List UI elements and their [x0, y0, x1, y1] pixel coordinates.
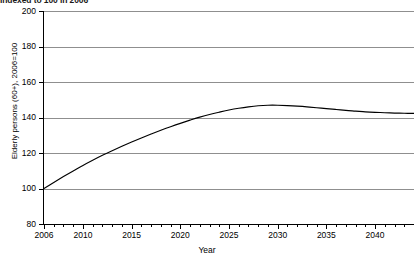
- x-tick-mark-2041: [385, 225, 386, 227]
- gridline-y-120: [44, 153, 414, 154]
- x-tick-label-2025: 2025: [209, 231, 249, 240]
- y-tick-mark-140: [39, 118, 43, 119]
- y-axis-label: Elderly persons (60+), 2006=100: [11, 13, 19, 189]
- x-tick-mark-2024: [219, 225, 220, 227]
- y-tick-mark-100: [39, 189, 43, 190]
- x-tick-mark-2025: [229, 225, 230, 229]
- x-tick-mark-2030: [278, 225, 279, 229]
- x-tick-mark-2028: [258, 225, 259, 227]
- gridline-y-100: [44, 189, 414, 190]
- x-tick-mark-2018: [161, 225, 162, 227]
- y-tick-mark-120: [39, 153, 43, 154]
- x-tick-mark-2017: [151, 225, 152, 227]
- y-tick-mark-200: [39, 11, 43, 12]
- x-tick-mark-2007: [54, 225, 55, 227]
- x-tick-mark-2015: [132, 225, 133, 229]
- x-tick-mark-2010: [83, 225, 84, 229]
- x-tick-mark-2014: [122, 225, 123, 227]
- x-tick-label-2015: 2015: [112, 231, 152, 240]
- x-tick-mark-2029: [268, 225, 269, 227]
- y-axis-line: [43, 11, 44, 225]
- x-tick-mark-2034: [317, 225, 318, 227]
- gridline-y-200: [44, 11, 414, 12]
- gridline-y-180: [44, 47, 414, 48]
- x-tick-mark-2020: [180, 225, 181, 229]
- x-tick-mark-2026: [239, 225, 240, 227]
- x-tick-mark-2023: [210, 225, 211, 227]
- gridline-y-160: [44, 82, 414, 83]
- chart-subtitle: Indexed to 100 in 2006: [0, 0, 88, 5]
- x-tick-mark-2006: [44, 225, 45, 229]
- x-tick-label-2035: 2035: [306, 231, 346, 240]
- x-tick-mark-2008: [63, 225, 64, 227]
- y-tick-mark-80: [39, 224, 43, 225]
- chart-container: Indexed to 100 in 2006 80100120140160180…: [0, 0, 414, 259]
- x-tick-mark-2043: [404, 225, 405, 227]
- x-tick-mark-2019: [171, 225, 172, 227]
- x-axis-label: Year: [0, 245, 414, 255]
- x-tick-mark-2009: [73, 225, 74, 227]
- x-tick-mark-2037: [346, 225, 347, 227]
- x-tick-mark-2022: [200, 225, 201, 227]
- x-tick-mark-2033: [307, 225, 308, 227]
- x-tick-label-2020: 2020: [160, 231, 200, 240]
- x-tick-mark-2038: [356, 225, 357, 227]
- plot-area: [44, 11, 414, 224]
- gridline-y-140: [44, 118, 414, 119]
- x-tick-mark-2036: [336, 225, 337, 227]
- y-tick-label-80: 80: [0, 220, 36, 229]
- x-tick-mark-2016: [141, 225, 142, 227]
- x-tick-mark-2040: [375, 225, 376, 229]
- x-tick-mark-2031: [287, 225, 288, 227]
- x-tick-mark-2035: [326, 225, 327, 229]
- x-tick-label-2030: 2030: [258, 231, 298, 240]
- x-tick-mark-2011: [93, 225, 94, 227]
- x-tick-label-2006: 2006: [24, 231, 64, 240]
- x-tick-mark-2012: [102, 225, 103, 227]
- x-tick-mark-2032: [297, 225, 298, 227]
- x-tick-label-2040: 2040: [355, 231, 395, 240]
- y-tick-mark-160: [39, 82, 43, 83]
- x-tick-mark-2042: [395, 225, 396, 227]
- y-tick-mark-180: [39, 47, 43, 48]
- x-tick-mark-2021: [190, 225, 191, 227]
- x-tick-mark-2027: [248, 225, 249, 227]
- x-tick-mark-2013: [112, 225, 113, 227]
- x-tick-mark-2039: [365, 225, 366, 227]
- x-tick-label-2010: 2010: [63, 231, 103, 240]
